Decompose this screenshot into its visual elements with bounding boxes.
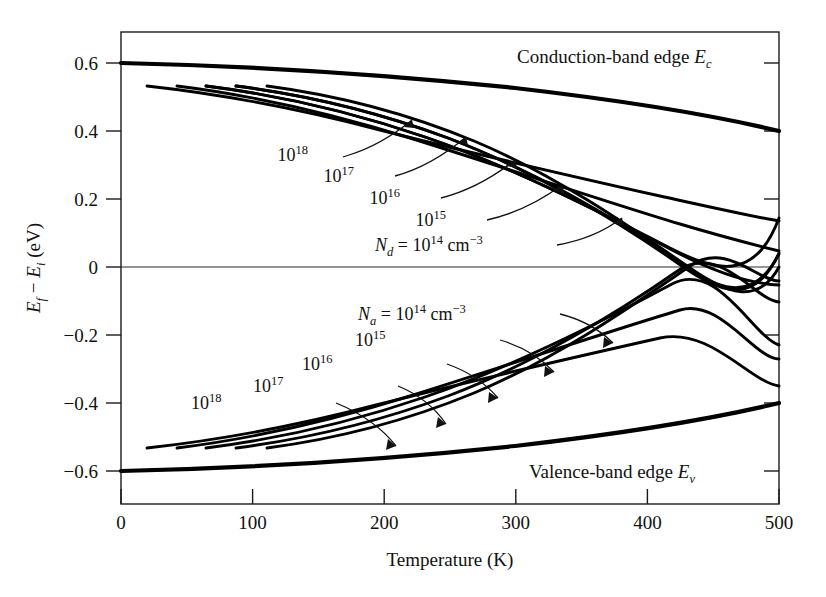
x-axis-title: Temperature (K) xyxy=(387,549,514,571)
acceptor-main-unit-exp: −3 xyxy=(452,302,465,316)
valence-band-symbol: E xyxy=(677,461,690,482)
acceptor-label-1e16-base: 10 xyxy=(302,354,320,374)
donor-main-eq: = 10 xyxy=(393,235,430,255)
y-title-units: (eV) xyxy=(23,223,45,263)
svg-text:Ef − Ei (eV): Ef − Ei (eV) xyxy=(23,223,48,314)
donor-label-1e15-base: 10 xyxy=(416,210,434,230)
acceptor-label-1e17-exp: 17 xyxy=(271,374,284,388)
donor-main-exp: 14 xyxy=(430,233,443,247)
donor-label-1e17-base: 10 xyxy=(324,166,342,186)
acceptor-label-1e15-exp: 15 xyxy=(373,328,386,342)
acceptor-main-unit: cm xyxy=(426,304,453,324)
acceptor-main-symbol: N xyxy=(357,304,371,324)
x-tick-label-0: 0 xyxy=(116,512,126,533)
donor-label-1e16-base: 10 xyxy=(370,188,388,208)
valence-band-symbol-sub: v xyxy=(689,472,695,486)
y-tick-label-4: −0.2 xyxy=(64,325,98,346)
donor-main-unit-exp: −3 xyxy=(469,233,482,247)
x-tick-label-3: 300 xyxy=(502,512,531,533)
donor-label-1e15-exp: 15 xyxy=(434,208,447,222)
donor-label-1e18-base: 10 xyxy=(278,145,296,165)
acceptor-label-1e17-base: 10 xyxy=(253,376,271,396)
figure-container: 0.6 0.4 0.2 0 −0.2 −0.4 −0.6 0 100 200 3… xyxy=(0,0,826,597)
x-tick-label-4: 400 xyxy=(633,512,662,533)
y-title-ef: E xyxy=(23,301,44,314)
donor-main-symbol: N xyxy=(374,235,388,255)
acceptor-label-1e15-base: 10 xyxy=(355,330,373,350)
y-axis-title: Ef − Ei (eV) xyxy=(23,223,48,314)
fermi-level-chart: 0.6 0.4 0.2 0 −0.2 −0.4 −0.6 0 100 200 3… xyxy=(0,0,826,597)
donor-label-1e18-exp: 18 xyxy=(296,143,309,157)
x-tick-label-2: 200 xyxy=(370,512,399,533)
conduction-band-symbol-sub: c xyxy=(706,57,712,71)
valence-band-label-text: Valence-band edge xyxy=(529,461,678,482)
y-tick-label-0: 0.6 xyxy=(74,53,98,74)
x-tick-label-5: 500 xyxy=(765,512,794,533)
y-tick-label-2: 0.2 xyxy=(74,189,98,210)
acceptor-label-1e18-exp: 18 xyxy=(209,391,222,405)
y-title-ei: E xyxy=(23,266,44,279)
y-tick-label-3: 0 xyxy=(89,257,99,278)
donor-main-unit: cm xyxy=(443,235,470,255)
donor-label-1e16-exp: 16 xyxy=(388,186,401,200)
conduction-band-symbol: E xyxy=(693,46,706,67)
y-axis-ticks xyxy=(106,63,121,471)
acceptor-main-eq: = 10 xyxy=(376,304,413,324)
y-tick-label-5: −0.4 xyxy=(64,393,99,414)
x-tick-label-1: 100 xyxy=(238,512,267,533)
donor-label-1e17-exp: 17 xyxy=(342,164,355,178)
conduction-band-label-text: Conduction-band edge xyxy=(517,46,694,67)
acceptor-label-1e16-exp: 16 xyxy=(320,352,333,366)
y-tick-label-1: 0.4 xyxy=(74,121,98,142)
acceptor-label-1e18-base: 10 xyxy=(191,393,209,413)
acceptor-main-exp: 14 xyxy=(413,302,426,316)
y-title-minus: − xyxy=(23,278,44,298)
y-tick-label-6: −0.6 xyxy=(64,461,98,482)
